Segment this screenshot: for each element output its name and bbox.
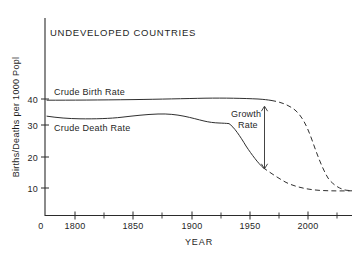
growth-rate-annotation: Growth Rate: [231, 106, 268, 169]
series-crude-birth-rate: [47, 98, 352, 191]
chart-title: UNDEVELOPED COUNTRIES: [50, 27, 196, 38]
y-tick-label-20: 20: [27, 153, 38, 163]
y-tick-label-30: 30: [27, 121, 38, 131]
y-axis-label: Births/Deaths per 1000 Popl: [11, 57, 21, 178]
y-tick-label-40: 40: [27, 95, 38, 105]
series-label-birth-rate: Crude Birth Rate: [54, 87, 125, 97]
origin-label: 0: [38, 221, 43, 231]
y-tick-labels: 40 30 20 10: [27, 95, 38, 194]
demographic-transition-chart: 40 30 20 10 1800 1850 1900 1950 2000 0: [0, 0, 358, 261]
x-tick-labels: 1800 1850 1900 1950 2000: [64, 221, 318, 231]
growth-rate-label-line1: Growth: [231, 109, 261, 119]
x-tick-label-1850: 1850: [122, 221, 143, 231]
chart-figure: 40 30 20 10 1800 1850 1900 1950 2000 0: [0, 0, 358, 261]
growth-rate-label-line2: Rate: [238, 120, 258, 130]
x-tick-label-1800: 1800: [64, 221, 85, 231]
birth-rate-line-projected: [271, 100, 352, 190]
birth-rate-line-observed: [47, 98, 271, 100]
x-tick-label-1950: 1950: [239, 221, 260, 231]
x-tick-label-1900: 1900: [181, 221, 202, 231]
x-axis-label: YEAR: [185, 237, 213, 247]
death-rate-line-observed: [47, 114, 263, 168]
x-tick-label-2000: 2000: [297, 221, 318, 231]
series-label-death-rate: Crude Death Rate: [54, 123, 131, 133]
y-tick-label-10: 10: [27, 184, 38, 194]
